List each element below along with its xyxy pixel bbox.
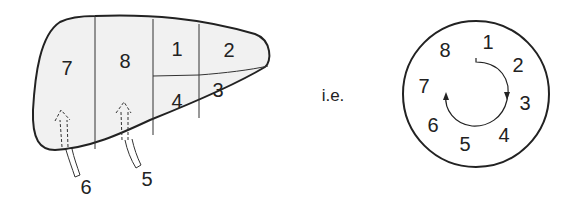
clock-label-6: 6: [427, 114, 438, 136]
clock-label-8: 8: [439, 39, 450, 61]
connector-text: i.e.: [322, 86, 345, 105]
liver-outline: [33, 16, 269, 150]
segment-label-7: 7: [61, 57, 72, 79]
arrow-label-6: 6: [80, 176, 91, 198]
clock-label-3: 3: [519, 92, 530, 114]
clock-label-4: 4: [498, 124, 509, 146]
segment-label-1: 1: [171, 38, 182, 60]
clock-diagram: 1 2 3 4 5 6 7 8: [403, 21, 549, 167]
clock-label-1: 1: [482, 31, 493, 53]
clock-label-5: 5: [459, 133, 470, 155]
clock-label-7: 7: [418, 75, 429, 97]
segment-label-8: 8: [119, 50, 130, 72]
segment-label-4: 4: [171, 90, 182, 112]
figure-canvas: 7 8 1 2 4 3 6 5 i.e. 1 2 3 4 5 6: [0, 0, 570, 207]
arrow-label-5: 5: [141, 168, 152, 190]
clock-label-2: 2: [512, 54, 523, 76]
liver-diagram: 7 8 1 2 4 3 6 5: [33, 16, 269, 199]
segment-label-3: 3: [212, 79, 223, 101]
segment-label-2: 2: [223, 39, 234, 61]
